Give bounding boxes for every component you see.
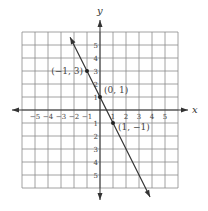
y-tick-label: 3 [94,68,98,76]
x-tick-label: −5 [30,113,40,121]
x-tick-label: −1 [82,113,92,121]
y-tick-label: 2 [94,133,98,141]
x-tick-label: 4 [150,113,155,121]
line-arrow-down-icon [145,190,150,197]
axes [12,20,188,200]
y-axis-label: y [96,5,103,16]
point-marker [98,95,102,99]
x-tick-label: −2 [69,113,79,121]
x-tick-label: −3 [56,113,66,121]
x-tick-label: 2 [124,113,128,121]
x-tick-label: 5 [163,113,167,121]
y-axis-arrow-up-icon [98,20,103,27]
x-axis-arrow-right-icon [181,108,188,113]
point-marker [111,121,115,125]
y-tick-label: 4 [94,159,99,167]
point-marker [85,69,89,73]
x-tick-label: 3 [137,113,141,121]
point-label: (1, −1) [118,122,150,132]
point-label: (0, 1) [104,85,128,95]
line-arrow-up-icon [70,37,75,44]
y-tick-label: 1 [94,94,98,102]
y-axis-arrow-down-icon [98,193,103,200]
x-axis-label: x [192,104,198,115]
x-axis-arrow-left-icon [12,108,19,113]
point-label: (−1, 3) [51,66,83,76]
y-tick-label: 5 [94,42,98,50]
tick-labels: −5−4−3−2−1123455432112345 [30,42,167,180]
y-tick-label: 1 [94,120,98,128]
y-tick-label: 5 [94,172,98,180]
coordinate-graph: −5−4−3−2−1123455432112345 (−1, 3)(0, 1)(… [0,0,208,211]
y-tick-label: 3 [94,146,98,154]
x-tick-label: −4 [43,113,54,121]
y-tick-label: 4 [94,55,99,63]
